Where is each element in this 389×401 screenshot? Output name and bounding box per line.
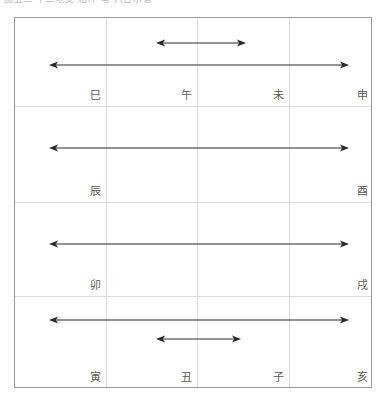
- cell-label-r1c3: 未: [273, 90, 284, 101]
- cell-label-r2c4: 酉: [357, 186, 368, 197]
- cell-label-r1c2: 午: [181, 90, 192, 101]
- caption-strip: 图五二 十二地支 相冲 与 六合示意: [0, 0, 389, 8]
- cell-label-r3c4: 戌: [357, 280, 368, 291]
- label-layer: 巳午未申辰酉卯戌寅丑子亥: [15, 18, 371, 387]
- cell-label-r4c2: 丑: [181, 372, 192, 383]
- cell-label-r1c1: 巳: [90, 90, 101, 101]
- branches-diagram: 巳午未申辰酉卯戌寅丑子亥: [14, 17, 372, 388]
- cell-label-r1c4: 申: [357, 90, 368, 101]
- cell-label-r2c1: 辰: [90, 186, 101, 197]
- cell-label-r4c4: 亥: [357, 372, 368, 383]
- cell-label-r3c1: 卯: [90, 280, 101, 291]
- cell-label-r4c3: 子: [273, 372, 284, 383]
- cell-label-r4c1: 寅: [90, 372, 101, 383]
- caption-fragment: 图五二 十二地支 相冲 与 六合示意: [4, 0, 152, 5]
